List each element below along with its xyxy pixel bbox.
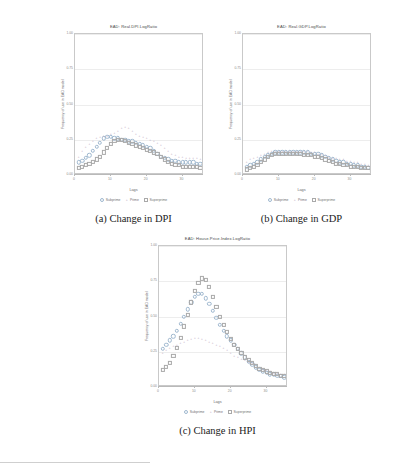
legend-marker-pri-icon: + <box>293 199 296 202</box>
data-point-sup <box>193 289 197 293</box>
data-point-pri <box>194 336 196 338</box>
data-point-pri <box>237 356 239 358</box>
legend-item-sub[interactable]: Subprime <box>100 198 121 202</box>
x-axis-line <box>158 386 287 387</box>
data-point-sup <box>105 146 109 150</box>
data-point-pri <box>222 346 224 348</box>
legend-item-pri[interactable]: +Prime <box>293 198 306 202</box>
plot-area <box>74 33 203 174</box>
x-axis-label: Lags <box>224 188 379 192</box>
x-tick-label: 30 <box>264 389 268 393</box>
data-point-pri <box>349 160 351 162</box>
data-point-pri <box>110 133 112 135</box>
data-point-sup <box>218 314 222 318</box>
data-point-sub <box>168 338 172 342</box>
data-point-pri <box>196 157 198 159</box>
data-point-sup <box>221 323 225 327</box>
data-point-sub <box>211 309 215 313</box>
gridline <box>243 140 370 141</box>
data-point-pri <box>306 150 308 152</box>
legend-item-sup[interactable]: Superprime <box>144 198 167 202</box>
panel-title: EAD: Real.DPI.LogRatio <box>56 24 211 30</box>
gridline <box>159 281 286 282</box>
data-point-pri <box>303 150 305 152</box>
data-point-pri <box>219 345 221 347</box>
panel-caption-gdp: (b) Change in GDP <box>224 213 379 224</box>
legend: Subprime+PrimeSuperprime <box>224 198 379 202</box>
data-point-pri <box>356 161 358 163</box>
legend-item-pri[interactable]: +Prime <box>125 198 138 202</box>
gridline <box>75 69 202 70</box>
data-point-pri <box>249 158 251 160</box>
data-point-pri <box>161 352 163 354</box>
legend-marker-sup-icon <box>312 198 316 202</box>
data-point-pri <box>169 346 171 348</box>
data-point-pri <box>339 158 341 160</box>
y-tick-label: 0.50 <box>150 314 157 318</box>
legend-item-sub[interactable]: Subprime <box>268 198 289 202</box>
data-point-pri <box>346 160 348 162</box>
panel-caption-dpi: (a) Change in DPI <box>56 213 211 224</box>
data-point-sup <box>102 150 106 154</box>
data-point-pri <box>197 336 199 338</box>
data-point-pri <box>135 133 137 135</box>
x-axis: 0102030 <box>242 174 371 184</box>
data-point-sup <box>171 354 175 358</box>
plot-area <box>242 33 371 174</box>
data-point-pri <box>260 154 262 156</box>
data-point-pri <box>117 130 119 132</box>
panel-title: EAD: Real.GDP.LogRatio <box>224 24 379 30</box>
data-point-pri <box>215 343 217 345</box>
legend-marker-sub-icon <box>100 198 104 202</box>
data-point-sup <box>175 345 179 349</box>
data-point-sup <box>178 336 182 340</box>
x-tick-label: 20 <box>144 177 148 181</box>
data-point-pri <box>167 150 169 152</box>
data-point-sub <box>185 307 189 311</box>
data-point-sup <box>203 278 207 282</box>
data-point-pri <box>142 136 144 138</box>
y-tick-label: 1.00 <box>234 31 241 35</box>
legend-item-sub[interactable]: Subprime <box>184 410 205 414</box>
data-point-sup <box>98 155 102 159</box>
data-point-sub <box>207 302 211 306</box>
data-point-sup <box>182 324 186 328</box>
x-tick-label: 0 <box>157 389 159 393</box>
data-point-pri <box>92 140 94 142</box>
legend-item-pri[interactable]: +Prime <box>209 410 222 414</box>
data-point-pri <box>360 163 362 165</box>
chart-panel-hpi: EAD: House.Price.Index.LogRatioFrequency… <box>140 236 295 441</box>
data-point-pri <box>190 338 192 340</box>
data-point-pri <box>99 136 101 138</box>
y-tick-label: 1.00 <box>66 31 73 35</box>
y-tick-label: 0.75 <box>234 66 241 70</box>
legend-item-sup[interactable]: Superprime <box>228 410 251 414</box>
data-point-sup <box>168 361 172 365</box>
data-point-pri <box>81 150 83 152</box>
data-point-pri <box>183 341 185 343</box>
data-point-sub <box>171 334 175 338</box>
data-point-pri <box>102 134 104 136</box>
data-point-pri <box>212 342 214 344</box>
data-point-pri <box>256 155 258 157</box>
data-point-pri <box>120 127 122 129</box>
y-tick-label: 0.50 <box>66 102 73 106</box>
data-point-pri <box>342 158 344 160</box>
chart-panel-dpi: EAD: Real.DPI.LogRatioFrequency of use i… <box>56 24 211 229</box>
data-point-pri <box>353 161 355 163</box>
data-point-pri <box>208 341 210 343</box>
data-point-pri <box>253 157 255 159</box>
figure-root: EAD: Real.DPI.LogRatioFrequency of use i… <box>0 0 411 467</box>
data-point-sup <box>189 300 193 304</box>
x-tick-label: 0 <box>241 177 243 181</box>
legend-marker-pri-icon: + <box>125 199 128 202</box>
panel-title: EAD: House.Price.Index.LogRatio <box>140 236 295 242</box>
legend-item-sup[interactable]: Superprime <box>312 198 335 202</box>
legend-label: Subprime <box>190 410 205 414</box>
data-point-pri <box>321 153 323 155</box>
data-point-sup <box>196 281 200 285</box>
gridline <box>75 34 202 35</box>
data-point-sub <box>175 328 179 332</box>
data-point-pri <box>226 349 228 351</box>
y-tick-label: 0.00 <box>66 172 73 176</box>
